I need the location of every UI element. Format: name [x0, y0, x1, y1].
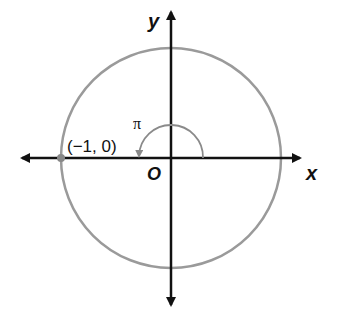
- x-axis-label: x: [305, 162, 318, 184]
- angle-label: π: [133, 115, 141, 132]
- point-label: (−1, 0): [67, 137, 117, 156]
- point-marker: [57, 154, 65, 162]
- origin-label: O: [147, 164, 161, 184]
- y-axis-label: y: [147, 10, 160, 32]
- unit-circle-diagram: y x O (−1, 0) π: [0, 0, 343, 330]
